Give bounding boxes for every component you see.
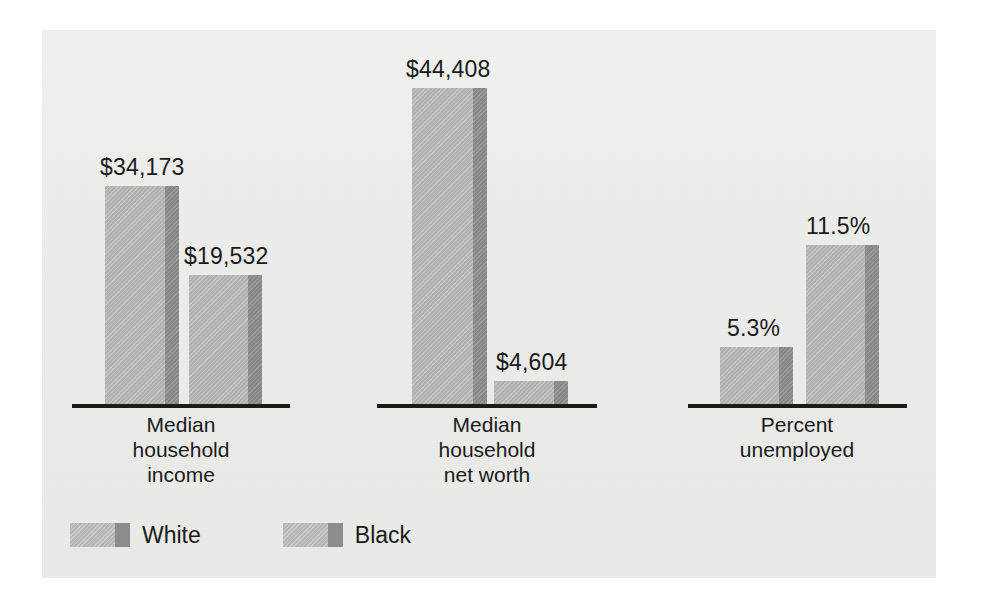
legend-swatch-side-shading	[115, 523, 130, 547]
chart-legend: White Black	[70, 518, 493, 552]
category-label-median-household-net-worth: Median household net worth	[387, 412, 587, 487]
value-label-black-unemployed: 11.5%	[806, 213, 871, 240]
bar-face	[806, 245, 865, 404]
bar-chart-figure: $34,173 $19,532 Median household income …	[0, 0, 984, 604]
value-label-black-income: $19,532	[184, 243, 269, 270]
bar-white-net-worth[interactable]	[412, 88, 487, 404]
bar-side-shading	[248, 275, 262, 404]
bar-face	[189, 275, 248, 404]
legend-label-black: Black	[355, 522, 411, 549]
bar-side-shading	[865, 245, 879, 404]
bar-black-income[interactable]	[189, 275, 262, 404]
value-label-white-net-worth: $44,408	[406, 56, 491, 83]
legend-item-black[interactable]: Black	[283, 522, 411, 549]
bar-side-shading	[473, 88, 487, 404]
bar-side-shading	[165, 186, 179, 404]
legend-label-white: White	[142, 522, 201, 549]
legend-swatch-face	[70, 523, 115, 547]
axis-line-group-2	[377, 404, 597, 408]
axis-line-group-1	[72, 404, 290, 408]
bar-side-shading	[554, 381, 568, 404]
bar-white-income[interactable]	[105, 186, 179, 404]
bar-face	[494, 381, 554, 404]
legend-item-white[interactable]: White	[70, 522, 201, 549]
legend-swatch-white-icon	[70, 523, 130, 547]
category-label-percent-unemployed: Percent unemployed	[697, 412, 897, 462]
legend-swatch-black-icon	[283, 523, 343, 547]
plot-area: $34,173 $19,532 Median household income …	[0, 0, 984, 604]
bar-black-unemployed[interactable]	[806, 245, 879, 404]
bar-white-unemployed[interactable]	[720, 347, 793, 404]
axis-line-group-3	[688, 404, 907, 408]
bar-side-shading	[779, 347, 793, 404]
bar-face	[105, 186, 165, 404]
bar-face	[412, 88, 473, 404]
value-label-white-unemployed: 5.3%	[727, 315, 780, 342]
category-label-median-household-income: Median household income	[81, 412, 281, 487]
legend-swatch-side-shading	[328, 523, 343, 547]
legend-swatch-face	[283, 523, 328, 547]
value-label-white-income: $34,173	[100, 154, 185, 181]
value-label-black-net-worth: $4,604	[496, 349, 568, 376]
bar-black-net-worth[interactable]	[494, 381, 568, 404]
bar-face	[720, 347, 779, 404]
